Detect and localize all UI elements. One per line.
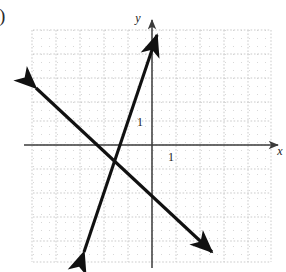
figure-container: y x 1 1 )	[0, 0, 286, 272]
x-axis-label: x	[276, 144, 283, 158]
corner-marker: )	[0, 5, 5, 27]
y-tick-label-1: 1	[137, 115, 143, 129]
coordinate-graph: y x 1 1 )	[0, 0, 286, 272]
x-tick-label-1: 1	[168, 150, 174, 164]
y-axis-label: y	[134, 11, 141, 25]
